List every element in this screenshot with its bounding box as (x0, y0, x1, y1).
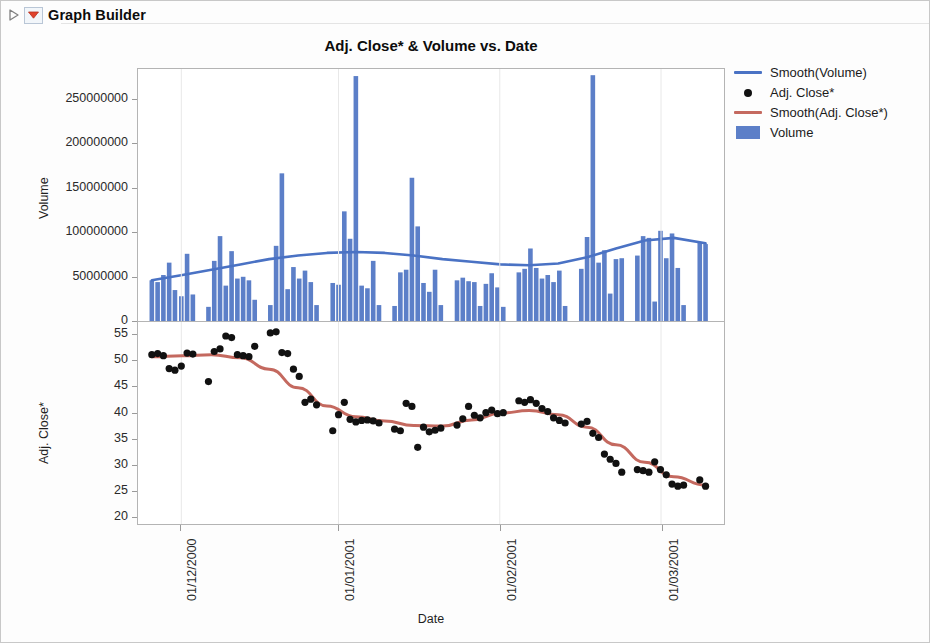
red-triangle-menu-icon[interactable] (24, 7, 43, 24)
volume-bar (495, 287, 500, 321)
scatter-point (453, 421, 460, 428)
volume-bar (229, 251, 234, 321)
volume-bar (314, 305, 319, 321)
volume-bar (522, 269, 527, 321)
volume-bar (161, 275, 166, 321)
volume-bar (224, 286, 229, 321)
volume-tick-label: 250000000 (65, 91, 128, 105)
volume-bar (241, 277, 246, 321)
close-plot-frame[interactable] (137, 321, 725, 525)
scatter-point (612, 460, 619, 467)
close-plot-canvas (138, 322, 724, 524)
volume-tick-label: 0 (121, 313, 128, 327)
scatter-point (607, 456, 614, 463)
volume-bar (579, 269, 584, 321)
volume-bar (410, 178, 415, 321)
scatter-point (680, 482, 687, 489)
volume-bar (404, 270, 409, 321)
volume-bar (247, 280, 252, 321)
scatter-point (420, 424, 427, 431)
scatter-point (245, 353, 252, 360)
close-smooth-line (152, 355, 706, 486)
volume-bar (342, 211, 347, 321)
triangle-collapse-icon[interactable] (7, 8, 21, 22)
legend-item[interactable]: Adj. Close* (733, 83, 923, 102)
scatter-point (228, 334, 235, 341)
dot-swatch-icon (733, 86, 763, 100)
legend-swatch (734, 71, 762, 75)
volume-bar (641, 236, 646, 321)
volume-bar (466, 281, 471, 321)
close-points (148, 328, 709, 490)
volume-bar (614, 259, 619, 321)
volume-bar (285, 289, 290, 321)
volume-bar (484, 284, 489, 321)
titlebar-divider (61, 23, 929, 24)
volume-bar (478, 306, 483, 321)
scatter-point (595, 434, 602, 441)
tick-mark (180, 525, 181, 531)
volume-bar (551, 282, 556, 321)
volume-bar (330, 283, 335, 321)
legend-item[interactable]: Smooth(Volume) (733, 63, 923, 82)
close-axis-title: Adj. Close* (37, 402, 51, 464)
x-tick-label: 01/01/2001 (343, 538, 357, 601)
volume-bar (252, 300, 257, 321)
x-tick-label: 01/12/2000 (185, 538, 199, 601)
volume-bar (398, 272, 403, 321)
volume-bar (280, 173, 285, 321)
volume-bar (647, 238, 652, 321)
scatter-point (459, 415, 466, 422)
volume-bars (150, 75, 708, 321)
scatter-point (189, 351, 196, 358)
chart-title: Adj. Close* & Volume vs. Date (137, 37, 725, 54)
volume-bar (235, 279, 240, 321)
volume-axis-title: Volume (37, 177, 51, 219)
legend-item[interactable]: Smooth(Adj. Close*) (733, 103, 923, 122)
legend-item[interactable]: Volume (733, 123, 923, 142)
scatter-point (645, 469, 652, 476)
volume-plot-canvas (138, 69, 724, 321)
close-tick-label: 25 (114, 483, 128, 497)
volume-bar (155, 282, 160, 321)
close-tick-label: 45 (114, 378, 128, 392)
scatter-point (178, 362, 185, 369)
volume-bar (540, 279, 545, 321)
volume-bar (455, 280, 460, 321)
scatter-point (313, 401, 320, 408)
volume-bar (652, 302, 657, 321)
line-swatch-icon (733, 66, 763, 80)
scatter-point (160, 352, 167, 359)
volume-bar (150, 280, 155, 321)
tick-mark (662, 525, 663, 531)
close-tick-label: 30 (114, 457, 128, 471)
line-swatch-icon (733, 106, 763, 120)
volume-tick-label: 50000000 (72, 269, 128, 283)
rect-swatch-icon (733, 126, 763, 140)
scatter-point (408, 403, 415, 410)
volume-bar (489, 273, 494, 321)
volume-bar (433, 270, 438, 321)
volume-plot-frame[interactable] (137, 68, 725, 321)
close-tick-label: 55 (114, 326, 128, 340)
volume-bar (268, 305, 273, 321)
outline-title-label: Graph Builder (48, 7, 146, 23)
scatter-point (544, 408, 551, 415)
x-tick-label: 01/02/2001 (505, 538, 519, 601)
scatter-point (663, 471, 670, 478)
scatter-point (284, 350, 291, 357)
scatter-point (696, 476, 703, 483)
volume-bar (167, 263, 172, 321)
scatter-point (205, 378, 212, 385)
volume-bar (421, 283, 426, 321)
graph-body: Adj. Close* & Volume vs. Date Volume Adj… (1, 29, 930, 643)
scatter-point (397, 427, 404, 434)
tick-mark (500, 525, 501, 531)
volume-bar (534, 268, 539, 321)
volume-bar (635, 256, 640, 321)
outline-titlebar: Graph Builder (1, 1, 930, 29)
legend-swatch (734, 111, 762, 115)
scatter-point (562, 419, 569, 426)
legend-label: Adj. Close* (770, 85, 834, 100)
volume-bar (602, 250, 607, 321)
